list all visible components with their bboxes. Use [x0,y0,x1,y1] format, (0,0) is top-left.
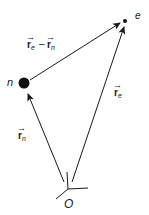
label-re-minus-rn: → r e – → r n [26,32,55,51]
vector-r-n-arrow [28,94,64,182]
label-r-e: → r e [113,80,122,99]
minus-operator: – [39,38,45,49]
vector-subscript: n [51,44,55,51]
label-r-n: → r n [17,123,26,142]
axis-z [67,172,68,189]
vector-subscript: n [22,135,26,142]
vector-subscript: e [31,44,35,51]
vector-subscript: e [118,92,122,99]
vector-re-minus-rn-arrow [30,23,120,80]
nucleus-label: n [7,76,13,88]
origin-axes [56,172,88,199]
vector-r-e-arrow [72,27,124,182]
electron-dot [123,19,127,23]
position-vector-diagram: O n e → r e – → r n → r n → r e [0,0,149,215]
electron-label: e [135,10,141,21]
nucleus-dot [19,78,30,89]
origin-label: O [64,197,73,211]
axis-y [68,188,88,189]
